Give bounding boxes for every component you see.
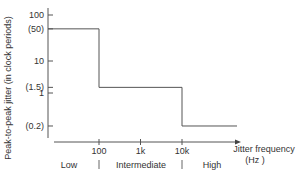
y-tick-label: 10 — [34, 56, 44, 66]
x-axis-title: Jitter frequency — [233, 144, 295, 154]
region-label-low: Low — [61, 160, 78, 170]
x-tick-label: 10k — [175, 146, 190, 156]
jitter-chart: Peak-to-peak jitter (in clock periods) 1… — [0, 0, 302, 178]
x-tick-label: 100 — [91, 146, 106, 156]
x-axis-unit: (Hz ) — [245, 155, 265, 165]
region-label-intermediate: Intermediate — [116, 160, 166, 170]
y-axis-title: Peak-to-peak jitter (in clock periods) — [3, 16, 13, 160]
y-tick-label: 1 — [39, 88, 44, 98]
x-tick-label: 1k — [136, 146, 146, 156]
series-line — [48, 29, 237, 126]
y-tick-label: 100 — [29, 10, 44, 20]
y-tick-label: (50) — [28, 24, 44, 34]
region-label-high: High — [203, 160, 222, 170]
y-tick-label: (0.2) — [25, 121, 44, 131]
